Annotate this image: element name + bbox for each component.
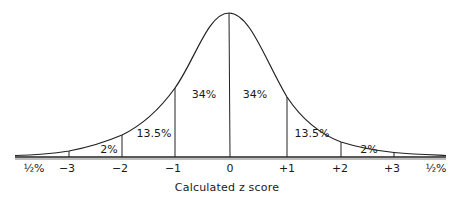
tick-label-minus-1: −1 — [165, 162, 181, 175]
tick-label-plus-3: +3 — [384, 162, 400, 175]
tail-label-left: ½% — [23, 162, 44, 175]
x-axis-title: Calculated z score — [175, 181, 279, 194]
tick-label-minus-3: −3 — [59, 162, 75, 175]
region-label-zero-plus1: 34% — [243, 88, 267, 101]
tick-label-plus-1: +1 — [279, 162, 295, 175]
region-label-minus1-zero: 34% — [192, 88, 216, 101]
tail-label-right: ½% — [425, 162, 446, 175]
region-label-minus3-minus2: 2% — [100, 143, 117, 156]
region-label-plus2-plus3: 2% — [360, 143, 377, 156]
z-line-zero — [229, 13, 230, 157]
region-label-plus1-plus2: 13.5% — [295, 127, 330, 140]
tick-label-plus-2: +2 — [332, 162, 348, 175]
tick-label-minus-2: −2 — [112, 162, 128, 175]
tick-label-zero: 0 — [227, 162, 234, 175]
bell-curve — [15, 13, 446, 156]
region-label-minus2-minus1: 13.5% — [137, 127, 172, 140]
